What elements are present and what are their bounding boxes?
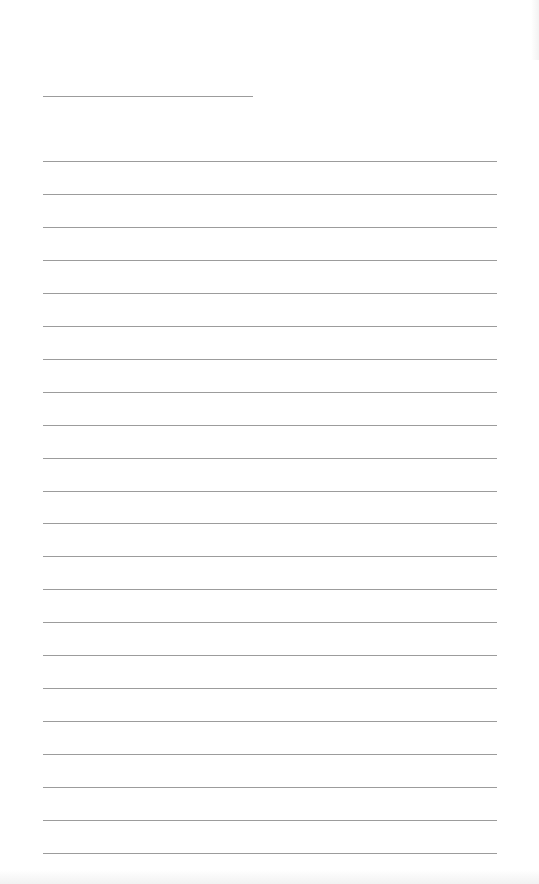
ruled-line [43, 326, 497, 327]
ruled-line [43, 194, 497, 195]
lined-paper-page [0, 0, 539, 884]
ruled-line [43, 754, 497, 755]
ruled-line [43, 491, 497, 492]
ruled-line [43, 458, 497, 459]
ruled-line [43, 392, 497, 393]
ruled-line [43, 260, 497, 261]
ruled-line [43, 589, 497, 590]
ruled-line [43, 820, 497, 821]
ruled-line [43, 853, 497, 854]
ruled-line [43, 227, 497, 228]
ruled-line [43, 293, 497, 294]
ruled-line [43, 359, 497, 360]
ruled-lines [0, 0, 539, 884]
ruled-line [43, 622, 497, 623]
page-edge-shadow-right [531, 0, 539, 60]
ruled-line [43, 523, 497, 524]
ruled-line [43, 655, 497, 656]
ruled-line [43, 425, 497, 426]
page-edge-shadow-bottom [0, 870, 539, 884]
ruled-line [43, 688, 497, 689]
ruled-line [43, 556, 497, 557]
ruled-line [43, 161, 497, 162]
ruled-line [43, 787, 497, 788]
ruled-line [43, 721, 497, 722]
